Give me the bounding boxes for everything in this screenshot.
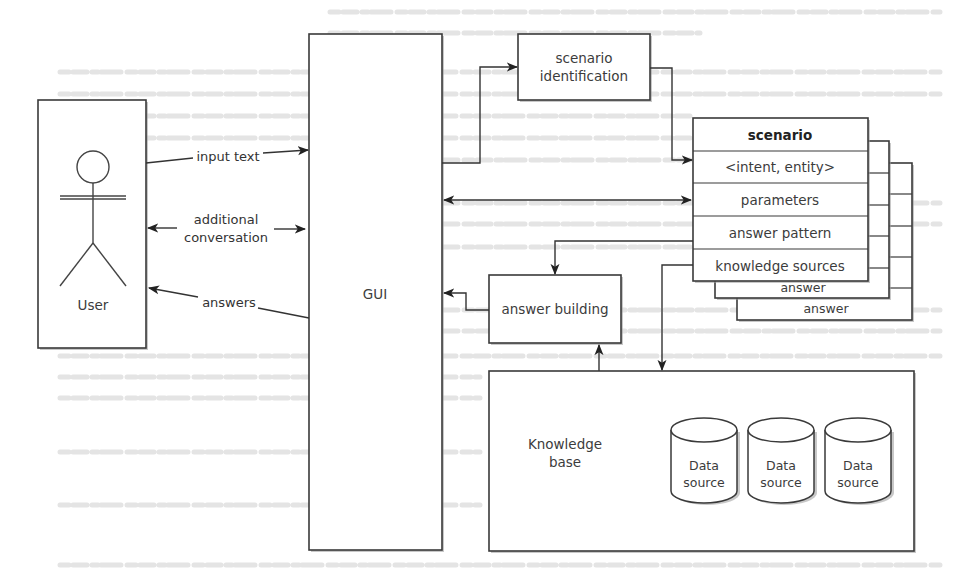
data-source-3-line1: Data	[843, 458, 873, 473]
data-source-2-line1: Data	[766, 458, 796, 473]
architecture-diagram: User GUI input text additional conversat…	[0, 0, 953, 586]
scenario-identification-line2: identification	[540, 68, 628, 84]
scenario-title: scenario	[748, 127, 812, 143]
data-source-1-line1: Data	[689, 458, 719, 473]
answers-label: answers	[202, 295, 256, 310]
knowledge-base-line2: base	[549, 454, 581, 470]
data-source-cylinder-1: Data source	[671, 418, 740, 505]
user-label: User	[78, 297, 109, 313]
scenario-identification-line1: scenario	[555, 50, 612, 66]
data-source-3-line2: source	[837, 475, 879, 490]
edge-input-text: input text	[146, 149, 308, 164]
answer-building-box: answer building	[489, 275, 623, 345]
scenario-row-answer-pattern: answer pattern	[729, 225, 832, 241]
conversation-label: conversation	[184, 230, 268, 245]
scenario-row-knowledge-sources: knowledge sources	[715, 258, 844, 274]
answer-building-label: answer building	[501, 301, 608, 317]
scenario-card-stack: answer answer scenario <intent, entity> …	[693, 118, 914, 322]
data-source-2-line2: source	[760, 475, 802, 490]
edge-answers: answers	[149, 288, 309, 318]
gui-box: GUI	[309, 34, 444, 552]
scenario-identification-box: scenario identification	[518, 34, 652, 102]
knowledge-base-line1: Knowledge	[528, 436, 602, 452]
edge-additional-conversation: additional conversation	[148, 212, 305, 245]
gui-label: GUI	[363, 286, 387, 302]
data-source-cylinder-2: Data source	[748, 418, 817, 505]
scenario-row-intent-entity: <intent, entity>	[725, 159, 835, 175]
stacked-answer-label-2: answer	[803, 301, 849, 316]
edge-answer-building-to-gui	[444, 293, 489, 310]
data-source-cylinder-3: Data source	[825, 418, 894, 505]
user-actor: User	[38, 100, 148, 350]
additional-label: additional	[194, 212, 259, 227]
input-text-label: input text	[196, 149, 259, 164]
data-source-1-line2: source	[683, 475, 725, 490]
knowledge-base-box: Knowledge base Data source Data source D…	[489, 371, 916, 553]
scenario-row-parameters: parameters	[741, 192, 819, 208]
